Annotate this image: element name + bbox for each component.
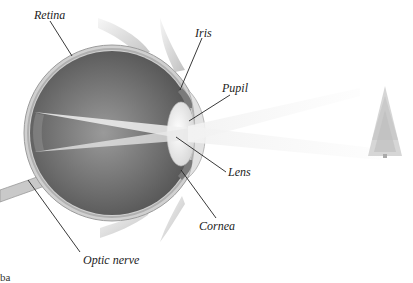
label-lens: Lens bbox=[228, 166, 251, 178]
label-optic-nerve: Optic nerve bbox=[83, 254, 139, 266]
tree-icon bbox=[368, 86, 402, 158]
label-pupil: Pupil bbox=[222, 82, 248, 94]
label-cornea: Cornea bbox=[199, 220, 235, 232]
label-iris: Iris bbox=[195, 27, 212, 39]
label-retina: Retina bbox=[34, 9, 65, 21]
caption-fragment: ba bbox=[0, 272, 10, 283]
